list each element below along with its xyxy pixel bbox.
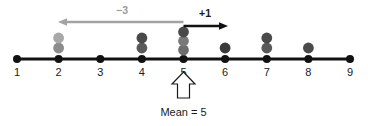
- deviation-negative-label: −3: [116, 4, 128, 16]
- tick-point-1: [13, 55, 21, 63]
- tick-label-1: 1: [14, 66, 20, 78]
- data-dot: [178, 27, 189, 38]
- tick-label-4: 4: [139, 66, 145, 78]
- data-dot: [137, 33, 148, 44]
- dot-plot-figure: 1 2 3 4 5 6 7 8 9 −3 +1 Mean = 5: [0, 0, 368, 126]
- deviation-negative-arrow: −3: [58, 4, 184, 26]
- dot-stack-2: [53, 33, 64, 54]
- mean-up-arrow-icon: [172, 72, 195, 98]
- dot-stack-8: [303, 43, 314, 54]
- tick-point-7: [263, 55, 271, 63]
- data-dot: [303, 43, 314, 54]
- data-dot: [53, 33, 64, 44]
- tick-point-3: [96, 55, 104, 63]
- arrow-head-right-icon: [219, 22, 228, 30]
- tick-label-3: 3: [97, 66, 103, 78]
- dot-stack-7: [261, 33, 272, 54]
- tick-label-6: 6: [222, 66, 228, 78]
- arrow-head-left-icon: [58, 18, 67, 26]
- tick-point-4: [138, 55, 146, 63]
- tick-point-6: [221, 55, 229, 63]
- mean-marker: Mean = 5: [160, 72, 206, 118]
- deviation-positive-arrow: +1: [184, 7, 229, 30]
- tick-label-2: 2: [56, 66, 62, 78]
- data-dot: [261, 33, 272, 44]
- tick-label-7: 7: [264, 66, 270, 78]
- dot-stack-4: [137, 33, 148, 54]
- tick-point-9: [346, 55, 354, 63]
- data-dot: [53, 43, 64, 54]
- data-dot: [137, 43, 148, 54]
- data-dot: [220, 43, 231, 54]
- dot-stack-6: [220, 43, 231, 54]
- tick-label-8: 8: [305, 66, 311, 78]
- tick-point-2: [55, 55, 63, 63]
- mean-label: Mean = 5: [160, 106, 206, 118]
- tick-point-8: [304, 55, 312, 63]
- dot-plot-canvas: 1 2 3 4 5 6 7 8 9 −3 +1 Mean = 5: [0, 0, 368, 126]
- deviation-positive-label: +1: [199, 7, 211, 19]
- tick-point-5: [180, 55, 188, 63]
- data-dot: [261, 43, 272, 54]
- tick-label-9: 9: [347, 66, 353, 78]
- dot-stack-5: [178, 27, 189, 56]
